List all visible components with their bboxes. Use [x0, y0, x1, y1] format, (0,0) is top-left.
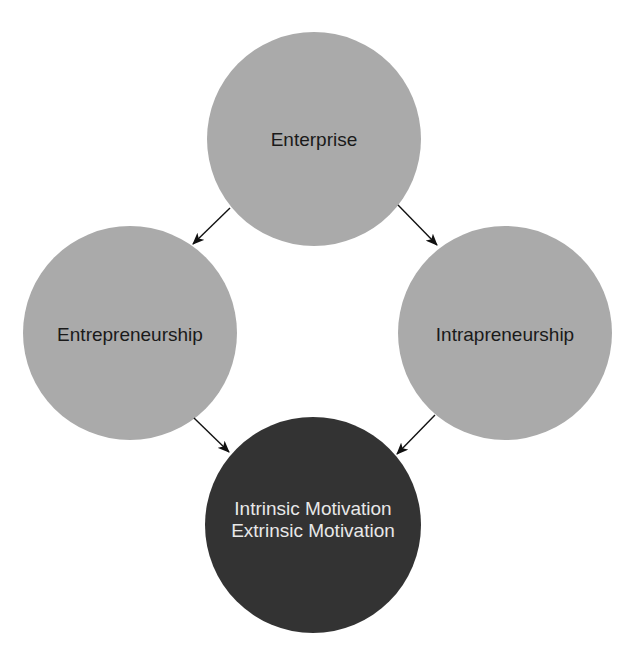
arrow-intrapreneurship-to-motivation: [397, 415, 435, 454]
node-intrapreneurship: Intrapreneurship: [398, 226, 612, 440]
node-enterprise: Enterprise: [207, 32, 421, 246]
arrow-entrepreneurship-to-motivation: [194, 418, 229, 452]
arrow-enterprise-to-intrapreneurship: [398, 205, 437, 245]
node-intrapreneurship-label: Intrapreneurship: [436, 324, 574, 345]
node-entrepreneurship: Entrepreneurship: [23, 226, 237, 440]
node-motivation-label-intrinsic: Intrinsic Motivation: [234, 498, 391, 519]
node-motivation-label-extrinsic: Extrinsic Motivation: [231, 520, 395, 541]
node-motivation: Intrinsic Motivation Extrinsic Motivatio…: [205, 417, 421, 633]
arrow-enterprise-to-entrepreneurship: [193, 208, 230, 244]
node-enterprise-label: Enterprise: [271, 129, 358, 150]
node-entrepreneurship-label: Entrepreneurship: [57, 324, 203, 345]
concept-diagram: Enterprise Entrepreneurship Intrapreneur…: [0, 0, 628, 646]
